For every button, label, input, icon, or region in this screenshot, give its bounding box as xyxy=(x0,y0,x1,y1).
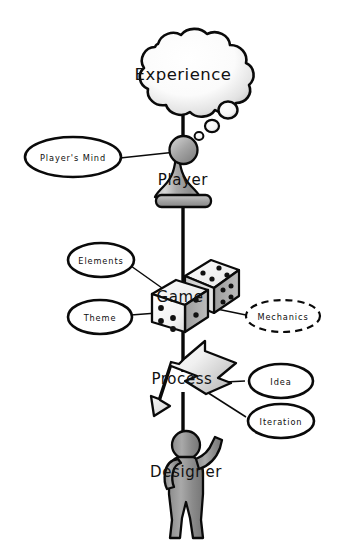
thought-bubble-large xyxy=(219,102,238,119)
connector-elements xyxy=(131,266,162,288)
node-label-experience: Experience xyxy=(134,65,231,84)
node-label-process: Process xyxy=(151,370,212,388)
node-designer[interactable]: Designer xyxy=(150,431,222,538)
satellite-label-theme: Theme xyxy=(83,313,117,323)
satellite-label-elements: Elements xyxy=(78,256,123,266)
satellite-label-mechanics: Mechanics xyxy=(257,312,308,322)
person-icon-head xyxy=(172,431,200,459)
node-player[interactable]: Player xyxy=(155,136,211,207)
pawn-icon-head xyxy=(170,136,198,164)
connector-players-mind xyxy=(120,152,176,158)
satellite-label-iteration: Iteration xyxy=(260,417,303,427)
satellite-iteration[interactable]: Iteration xyxy=(248,404,314,438)
satellite-label-idea: Idea xyxy=(270,377,291,387)
node-label-game: Game xyxy=(156,288,203,306)
satellite-mechanics[interactable]: Mechanics xyxy=(246,300,320,332)
node-label-player: Player xyxy=(158,171,209,189)
satellite-theme[interactable]: Theme xyxy=(68,300,132,334)
diagram-svg: Experience Player xyxy=(0,0,349,543)
node-label-designer: Designer xyxy=(150,463,222,481)
thought-bubble-small xyxy=(195,132,204,140)
satellite-players-mind[interactable]: Player's Mind xyxy=(25,137,121,177)
thought-bubble-medium xyxy=(205,120,219,132)
diagram-canvas: Experience Player xyxy=(0,0,349,543)
pawn-icon-base xyxy=(156,195,211,207)
satellite-elements[interactable]: Elements xyxy=(68,243,134,277)
satellite-idea[interactable]: Idea xyxy=(249,364,313,398)
node-process[interactable]: Process xyxy=(151,341,236,416)
node-game[interactable]: Game xyxy=(152,260,239,332)
satellite-label-players-mind: Player's Mind xyxy=(40,153,106,163)
